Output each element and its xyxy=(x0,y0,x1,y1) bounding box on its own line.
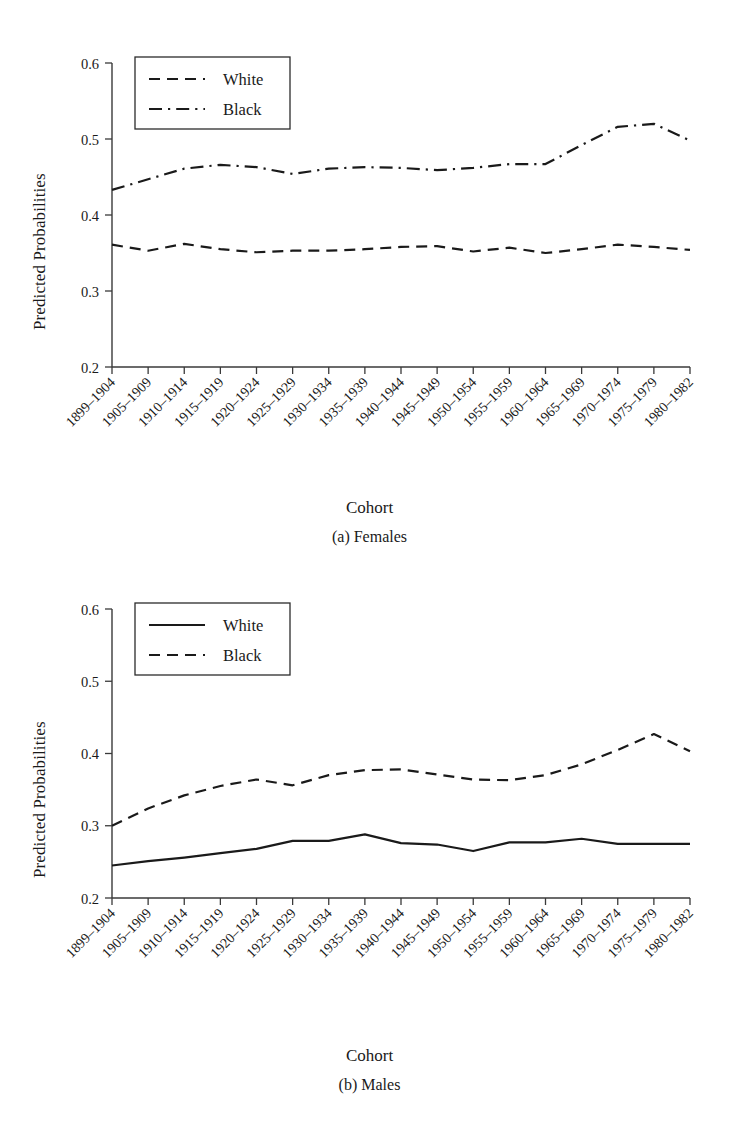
series-line-black xyxy=(112,734,690,826)
figure-container: Predicted Probabilities 0.20.30.40.50.61… xyxy=(0,0,739,1129)
series-line-white xyxy=(112,244,690,253)
y-axis-title-males: Predicted Probabilities xyxy=(30,721,50,878)
y-tick-label: 0.4 xyxy=(81,208,100,224)
x-axis-title-females: Cohort xyxy=(0,498,739,518)
subfigure-caption-females: (a) Females xyxy=(0,528,739,546)
y-tick-label: 0.5 xyxy=(81,674,99,690)
legend-label-black: Black xyxy=(223,100,262,119)
subfigure-caption-males: (b) Males xyxy=(0,1076,739,1094)
y-tick-label: 0.4 xyxy=(81,746,100,762)
y-tick-label: 0.3 xyxy=(81,818,99,834)
y-tick-label: 0.3 xyxy=(81,284,99,300)
y-tick-label: 0.6 xyxy=(81,56,99,72)
y-tick-label: 0.2 xyxy=(81,891,99,907)
y-tick-label: 0.6 xyxy=(81,602,99,618)
chart-panel-males: Predicted Probabilities 0.20.30.40.50.61… xyxy=(0,566,739,1129)
series-line-black xyxy=(112,124,690,190)
legend-label-white: White xyxy=(223,616,263,635)
y-tick-label: 0.5 xyxy=(81,132,99,148)
y-axis-title-females: Predicted Probabilities xyxy=(30,173,50,330)
chart-panel-females: Predicted Probabilities 0.20.30.40.50.61… xyxy=(0,0,739,566)
y-tick-label: 0.2 xyxy=(81,360,99,376)
legend-label-white: White xyxy=(223,70,263,89)
legend-label-black: Black xyxy=(223,646,262,665)
plot-area-males: 0.20.30.40.50.61899–19041905–19091910–19… xyxy=(0,566,739,1046)
series-line-white xyxy=(112,834,690,865)
plot-area-females: 0.20.30.40.50.61899–19041905–19091910–19… xyxy=(0,0,739,500)
x-axis-title-males: Cohort xyxy=(0,1046,739,1066)
